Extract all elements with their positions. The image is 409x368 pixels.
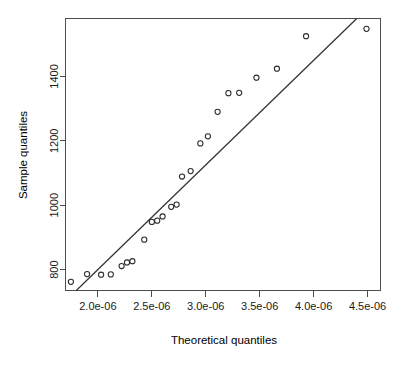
data-point-marker: [149, 219, 154, 224]
data-point-marker: [226, 91, 231, 96]
data-point-marker: [98, 272, 103, 277]
data-points: [68, 26, 369, 284]
data-point-marker: [237, 90, 242, 95]
data-point-marker: [215, 109, 220, 114]
plot-frame: [66, 19, 381, 291]
plot-box-border: [66, 19, 381, 291]
x-axis-title: Theoretical quantiles: [171, 334, 277, 346]
qq-reference-line: [76, 19, 356, 291]
y-axis-ticks: 800100012001400: [49, 64, 66, 279]
data-point-marker: [155, 218, 160, 223]
reference-line: [76, 19, 356, 291]
data-point-marker: [68, 279, 73, 284]
data-point-marker: [188, 168, 193, 173]
y-tick-label: 1200: [49, 129, 61, 153]
qq-plot-figure: 2.0e-062.5e-063.0e-063.5e-064.0e-064.5e-…: [0, 0, 409, 368]
data-point-marker: [124, 260, 129, 265]
data-point-marker: [160, 214, 165, 219]
data-point-marker: [119, 263, 124, 268]
data-point-marker: [169, 204, 174, 209]
y-tick-label: 1400: [49, 64, 61, 88]
data-point-marker: [130, 259, 135, 264]
x-tick-label: 3.0e-06: [187, 300, 224, 312]
y-tick-label: 800: [49, 260, 61, 278]
x-tick-label: 4.0e-06: [295, 300, 332, 312]
data-point-marker: [142, 237, 147, 242]
data-point-marker: [174, 202, 179, 207]
x-tick-label: 2.5e-06: [133, 300, 170, 312]
y-axis-title: Sample quantiles: [17, 111, 29, 199]
data-point-marker: [108, 272, 113, 277]
data-point-marker: [179, 174, 184, 179]
data-point-marker: [84, 271, 89, 276]
data-point-marker: [303, 34, 308, 39]
x-tick-label: 2.0e-06: [79, 300, 116, 312]
x-axis-ticks: 2.0e-062.5e-063.0e-063.5e-064.0e-064.5e-…: [79, 291, 386, 312]
data-point-marker: [274, 66, 279, 71]
qq-plot-canvas: 2.0e-062.5e-063.0e-063.5e-064.0e-064.5e-…: [0, 0, 409, 368]
x-tick-label: 4.5e-06: [349, 300, 386, 312]
y-tick-label: 1000: [49, 193, 61, 217]
data-point-marker: [364, 26, 369, 31]
data-point-marker: [205, 134, 210, 139]
x-tick-label: 3.5e-06: [241, 300, 278, 312]
data-point-marker: [254, 75, 259, 80]
data-point-marker: [198, 141, 203, 146]
